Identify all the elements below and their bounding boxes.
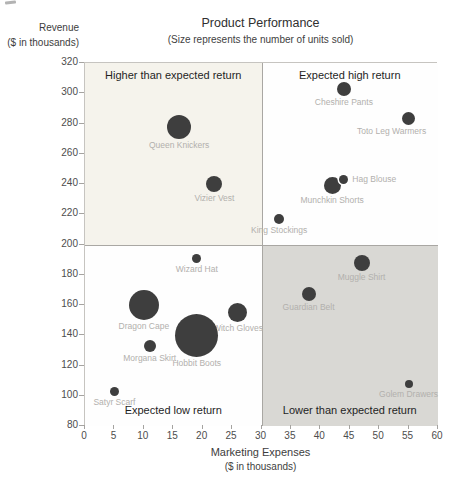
data-point-label: Satyr Scarf (93, 398, 135, 407)
x-tick-label: 30 (248, 430, 274, 441)
data-point-label: Hobbit Boots (172, 359, 221, 368)
x-tick-label: 45 (336, 430, 362, 441)
x-tick-label: 50 (365, 430, 391, 441)
data-point-bubble (129, 290, 159, 320)
x-tick-mark (408, 425, 409, 429)
data-point-label: Golem Drawers (379, 390, 438, 399)
y-tick-label: 100 (38, 389, 78, 400)
y-tick-mark (79, 62, 84, 63)
quadrant-label-top-left: Higher than expected return (85, 69, 262, 81)
y-tick-label: 140 (38, 328, 78, 339)
data-point-label: Vizier Vest (194, 194, 234, 203)
x-tick-mark (290, 425, 291, 429)
y-tick-mark (79, 395, 84, 396)
y-tick-label: 120 (38, 359, 78, 370)
data-point-label: King Stockings (251, 226, 307, 235)
x-tick-label: 25 (218, 430, 244, 441)
data-point-bubble (110, 387, 119, 396)
data-point-bubble (302, 287, 316, 301)
x-tick-label: 10 (130, 430, 156, 441)
x-tick-mark (202, 425, 203, 429)
y-tick-mark (79, 274, 84, 275)
x-tick-label: 60 (424, 430, 450, 441)
data-point-label: Wizard Hat (176, 265, 218, 274)
y-tick-label: 180 (38, 268, 78, 279)
data-point-label: Cheshire Pants (315, 98, 373, 107)
data-point-bubble (405, 380, 413, 388)
x-tick-label: 40 (306, 430, 332, 441)
x-tick-mark (84, 425, 85, 429)
chart-subtitle: (Size represents the number of units sol… (64, 34, 457, 45)
data-point-label: Muggle Shirt (338, 273, 386, 282)
y-tick-mark (79, 92, 84, 93)
y-tick-mark (79, 183, 84, 184)
chart-title: Product Performance (84, 16, 437, 30)
data-point-label: Dragon Cape (119, 322, 170, 331)
data-point-bubble (192, 254, 201, 263)
data-point-bubble (324, 177, 341, 194)
data-point-bubble (175, 314, 218, 357)
x-tick-label: 15 (159, 430, 185, 441)
y-tick-label: 220 (38, 207, 78, 218)
data-point-bubble (354, 255, 370, 271)
x-tick-label: 35 (277, 430, 303, 441)
data-point-label: Witch Gloves (213, 324, 263, 333)
data-point-label: Guardian Belt (283, 303, 335, 312)
data-point-label: Toto Leg Warmers (357, 127, 426, 136)
quadrant-label-bottom-right: Lower than expected return (262, 404, 439, 416)
quadrant-divider-horizontal (85, 245, 438, 246)
x-tick-mark (261, 425, 262, 429)
x-tick-mark (437, 425, 438, 429)
data-point-bubble (144, 340, 156, 352)
data-point-label: Munchkin Shorts (300, 196, 363, 205)
quadrant-label-top-right: Expected high return (262, 69, 439, 81)
y-tick-label: 200 (38, 238, 78, 249)
data-point-bubble (274, 214, 284, 224)
quadrant-top-left (85, 63, 262, 245)
y-axis-title-line1: Revenue (0, 20, 79, 35)
x-tick-label: 55 (395, 430, 421, 441)
y-tick-mark (79, 365, 84, 366)
scan-artifact-mark (5, 0, 16, 4)
y-tick-mark (79, 213, 84, 214)
data-point-label: Morgana Skirt (123, 354, 176, 363)
y-tick-label: 320 (38, 56, 78, 67)
y-tick-mark (79, 123, 84, 124)
y-tick-mark (79, 334, 84, 335)
y-tick-mark (79, 244, 84, 245)
data-point-label: Queen Knickers (149, 141, 209, 150)
y-tick-mark (79, 153, 84, 154)
x-tick-label: 0 (71, 430, 97, 441)
x-tick-mark (349, 425, 350, 429)
y-tick-label: 300 (38, 86, 78, 97)
x-tick-mark (378, 425, 379, 429)
data-point-bubble (337, 82, 351, 96)
x-tick-label: 5 (100, 430, 126, 441)
x-tick-label: 20 (189, 430, 215, 441)
y-tick-mark (79, 304, 84, 305)
x-tick-mark (319, 425, 320, 429)
x-tick-mark (113, 425, 114, 429)
y-tick-label: 80 (38, 419, 78, 430)
x-tick-mark (172, 425, 173, 429)
y-tick-label: 240 (38, 177, 78, 188)
y-tick-label: 280 (38, 117, 78, 128)
x-tick-mark (231, 425, 232, 429)
x-axis-subtitle: ($ in thousands) (84, 461, 437, 472)
x-tick-mark (143, 425, 144, 429)
y-tick-label: 160 (38, 298, 78, 309)
y-tick-label: 260 (38, 147, 78, 158)
data-point-label: Hag Blouse (352, 175, 396, 184)
chart-root: Revenue ($ in thousands) Product Perform… (0, 0, 460, 493)
data-point-bubble (167, 115, 191, 139)
x-axis-title: Marketing Expenses (84, 446, 437, 458)
plot-area: Higher than expected return Expected hig… (84, 62, 437, 425)
